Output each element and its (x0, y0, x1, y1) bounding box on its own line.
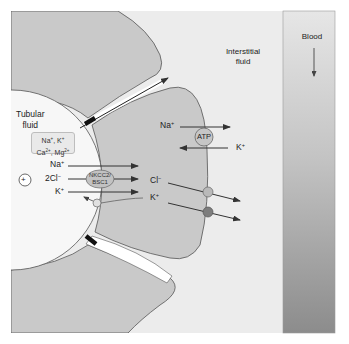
nephron-transport-diagram: Tubular fluid Na+, K+ Ca2+, Mg2+ + Na+ 2… (0, 0, 349, 344)
cl-apical-label: 2Cl− (45, 174, 61, 183)
romk-channel (93, 199, 101, 207)
cl-cell-label: Cl− (150, 176, 161, 185)
k-pump-label: K+ (236, 143, 245, 152)
diagram-canvas (0, 0, 349, 344)
atp-label: ATP (195, 133, 213, 141)
na-apical-label: Na+ (50, 160, 64, 169)
na-pump-label: Na+ (160, 121, 174, 130)
k-apical-label: K+ (55, 187, 64, 196)
lumen-positive-symbol: + (21, 176, 26, 184)
blood-label: Blood (292, 33, 332, 41)
interstitial-fluid-label: Interstitial fluid (213, 48, 273, 66)
k-channel (203, 207, 213, 217)
cl-channel (203, 187, 213, 197)
paracellular-cations-box: Na+, K+ Ca2+, Mg2+ (31, 132, 75, 154)
tubular-fluid-label: Tubular fluid (16, 110, 45, 129)
nkcc2-label: NKCC2/ BSC1 (86, 172, 114, 186)
blood-vessel (283, 11, 335, 333)
k-cell-label: K+ (150, 193, 159, 202)
